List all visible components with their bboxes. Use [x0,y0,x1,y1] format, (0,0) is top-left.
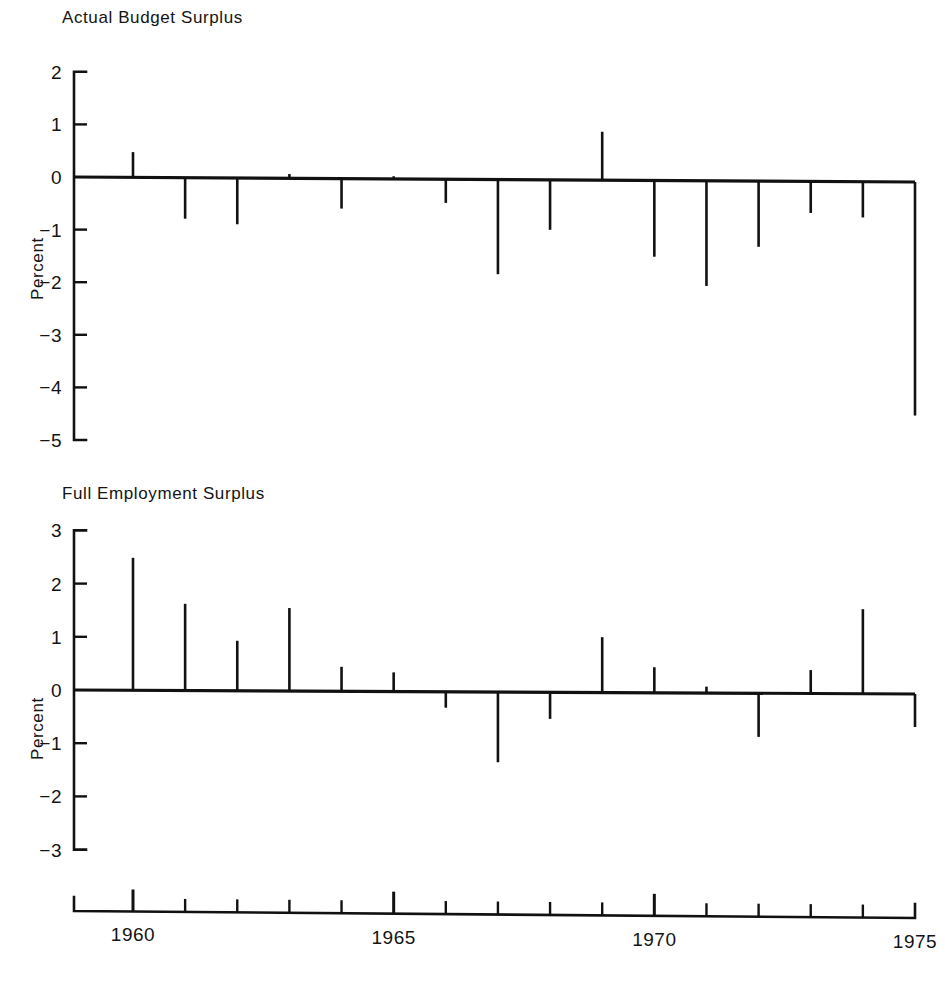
panel-title-full-employment-surplus: Full Employment Surplus [62,484,265,504]
y-tick-label-1-1: 2 [51,574,62,595]
y-tick-label-1-0: 3 [51,520,62,541]
y-tick-label-0-1: 1 [51,114,62,135]
x-tick-label-1965: 1965 [372,927,416,948]
figure-container: Actual Budget Surplus Percent Full Emplo… [0,0,945,986]
chart-panel-full-employment-surplus: 3210−1−2−3 [39,520,915,860]
y-tick-label-1-6: −3 [39,840,62,861]
y-tick-label-1-3: 0 [51,680,62,701]
x-tick-label-1960: 1960 [111,924,155,945]
chart-panel-actual-budget-surplus: 210−1−2−3−4−5 [39,62,915,451]
y-axis-label-bottom: Percent [28,697,48,760]
y-tick-label-0-5: −3 [39,325,62,346]
zero-baseline-1 [74,690,915,694]
y-tick-label-0-2: 0 [51,167,62,188]
y-axis-spine-0 [74,72,86,440]
y-tick-label-0-6: −4 [39,377,62,398]
shared-x-axis: 1960196519701975 [74,889,937,952]
y-tick-label-1-5: −2 [39,786,62,807]
y-tick-label-0-7: −5 [39,430,62,451]
y-axis-label-top: Percent [28,237,48,300]
panel-title-actual-budget-surplus: Actual Budget Surplus [62,8,243,28]
x-tick-label-1970: 1970 [632,929,676,950]
y-tick-label-1-2: 1 [51,627,62,648]
zero-baseline-0 [74,177,915,182]
x-axis-spine [74,897,915,918]
y-tick-label-0-0: 2 [51,62,62,83]
x-tick-label-1975: 1975 [893,931,937,952]
